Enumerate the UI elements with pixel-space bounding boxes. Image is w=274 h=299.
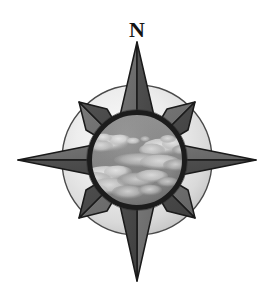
compass-rose-figure: N	[0, 0, 274, 299]
north-label: N	[0, 17, 274, 43]
compass-rose-graphic	[0, 0, 274, 299]
